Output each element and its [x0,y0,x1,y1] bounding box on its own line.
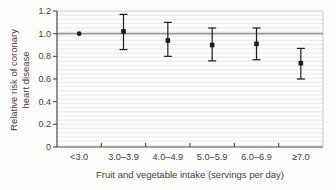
x-tick-label: ≥7.0 [292,152,310,162]
data-point [299,61,304,66]
x-tick-label: 4.0–4.9 [153,152,184,162]
y-tick-label: 1.2 [38,6,51,16]
y-axis-title: Relative risk of coronary heart disease [8,0,34,160]
chart-figure: 00.20.40.60.81.01.2<3.03.0–3.94.0–4.95.0… [0,0,336,190]
y-tick-label: 1.0 [38,29,51,39]
x-tick-label: <3.0 [70,152,88,162]
data-point [254,42,259,47]
plot-frame [57,11,323,147]
y-tick-label: 0.2 [38,119,51,129]
y-tick-label: 0.4 [38,97,51,107]
x-tick-label: 5.0–5.9 [197,152,228,162]
data-point [121,29,126,34]
y-tick-label: 0 [46,142,51,152]
y-axis-title-line2: heart disease [20,0,32,160]
y-axis-title-line1: Relative risk of coronary [8,0,20,160]
x-tick-label: 6.0–6.9 [241,152,272,162]
y-tick-label: 0.8 [38,51,51,61]
data-point [166,38,171,43]
chart-canvas: 00.20.40.60.81.01.2<3.03.0–3.94.0–4.95.0… [0,0,336,190]
x-tick-label: 3.0–3.9 [108,152,139,162]
data-point-reference [77,31,82,36]
x-axis-title: Fruit and vegetable intake (servings per… [57,169,323,180]
data-point [210,43,215,48]
y-tick-label: 0.6 [38,74,51,84]
